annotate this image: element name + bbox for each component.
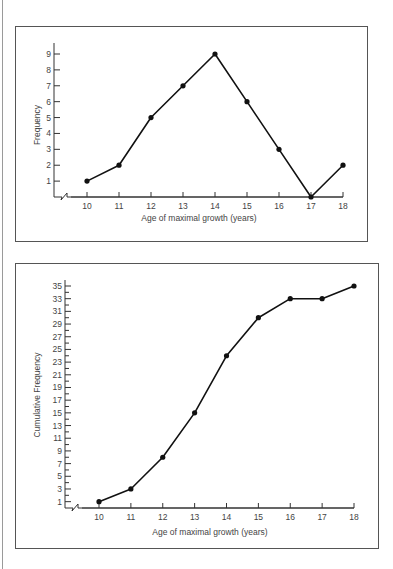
data-point: [320, 296, 325, 301]
y-tick-label: 27: [53, 332, 63, 342]
y-tick-label: 3: [57, 484, 62, 494]
x-tick-label: 15: [254, 512, 264, 522]
y-tick-label: 7: [57, 459, 62, 469]
data-point: [160, 455, 165, 460]
data-point: [96, 499, 101, 504]
cumulative-x-axis-title: Age of maximal growth (years): [152, 527, 267, 537]
data-point: [192, 410, 197, 415]
y-tick-label: 25: [53, 344, 63, 354]
y-tick-label: 33: [53, 294, 63, 304]
data-point: [288, 296, 293, 301]
y-tick-label: 15: [53, 408, 63, 418]
y-tick-label: 5: [57, 471, 62, 481]
x-tick-label: 16: [286, 512, 296, 522]
cumulative-y-axis-title: Cumulative Frequency: [32, 352, 42, 438]
x-tick-label: 11: [126, 512, 135, 522]
y-tick-label: 35: [53, 281, 63, 291]
y-tick-label: 9: [57, 446, 62, 456]
data-line: [99, 286, 354, 502]
y-tick-label: 11: [53, 433, 62, 443]
x-tick-label: 18: [349, 512, 359, 522]
cumulative-plot: 1357911131517192123252729313335101112131…: [53, 280, 359, 522]
y-tick-label: 1: [57, 497, 62, 507]
data-point: [224, 353, 229, 358]
y-tick-label: 31: [53, 306, 63, 316]
data-point: [351, 283, 356, 288]
x-tick-label: 13: [190, 512, 200, 522]
data-point: [256, 315, 261, 320]
y-tick-label: 29: [53, 319, 63, 329]
x-tick-label: 17: [317, 512, 327, 522]
cumulative-chart: Cumulative Frequency Age of maximal grow…: [0, 0, 393, 569]
y-tick-label: 19: [53, 382, 63, 392]
x-tick-label: 10: [94, 512, 104, 522]
y-tick-label: 21: [53, 370, 63, 380]
x-tick-label: 14: [222, 512, 232, 522]
y-tick-label: 13: [53, 421, 63, 431]
y-tick-label: 23: [53, 357, 63, 367]
data-point: [128, 486, 133, 491]
y-tick-label: 17: [53, 395, 63, 405]
x-tick-label: 12: [158, 512, 168, 522]
